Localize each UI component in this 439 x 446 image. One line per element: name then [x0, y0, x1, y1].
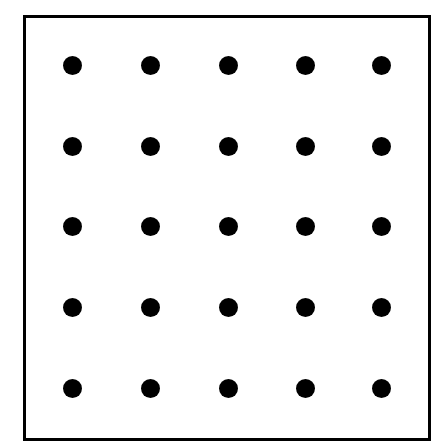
- grid-dot: [296, 56, 315, 75]
- grid-dot: [141, 137, 160, 156]
- grid-dot: [141, 379, 160, 398]
- grid-dot: [296, 217, 315, 236]
- grid-dot: [141, 56, 160, 75]
- grid-dot: [141, 298, 160, 317]
- grid-dot: [219, 217, 238, 236]
- grid-dot: [372, 137, 391, 156]
- grid-dot: [219, 137, 238, 156]
- grid-dot: [372, 298, 391, 317]
- grid-dot: [372, 379, 391, 398]
- grid-dot: [219, 298, 238, 317]
- grid-dot: [372, 56, 391, 75]
- grid-dot: [63, 137, 82, 156]
- grid-dot: [219, 56, 238, 75]
- grid-dot: [63, 56, 82, 75]
- grid-dot: [296, 379, 315, 398]
- grid-dot: [63, 379, 82, 398]
- grid-dot: [372, 217, 391, 236]
- grid-dot: [141, 217, 160, 236]
- grid-dot: [63, 298, 82, 317]
- grid-dot: [296, 137, 315, 156]
- grid-dot: [63, 217, 82, 236]
- grid-dot: [219, 379, 238, 398]
- grid-dot: [296, 298, 315, 317]
